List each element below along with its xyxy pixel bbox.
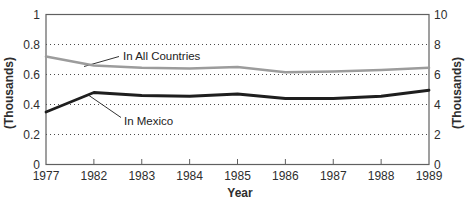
- x-axis-tick-label: 1985: [214, 169, 262, 183]
- left-axis-tick-label: 0.8: [0, 38, 40, 52]
- right-axis-tick-label: 10: [434, 8, 447, 22]
- series-label-mexico: In Mexico: [124, 114, 173, 128]
- x-axis-tick-label: 1986: [261, 169, 309, 183]
- right-axis-title: (Thousands): [450, 57, 464, 129]
- line-chart-figure: (Thousands) (Thousands) Year In All Coun…: [0, 0, 471, 208]
- x-axis-tick-label: 1983: [118, 169, 166, 183]
- x-axis-tick-label: 1988: [357, 169, 405, 183]
- left-axis-tick-label: 0.6: [0, 68, 40, 82]
- x-axis-tick-label: 1982: [70, 169, 118, 183]
- x-axis-title: Year: [214, 186, 266, 200]
- series-line-all-countries: [46, 57, 429, 73]
- right-axis-tick-label: 6: [434, 68, 441, 82]
- x-axis-tick-label: 1987: [309, 169, 357, 183]
- left-axis-tick-label: 0.2: [0, 128, 40, 142]
- series-label-all-countries: In All Countries: [123, 49, 200, 63]
- plot-border: [46, 15, 429, 165]
- x-axis-tick-label: 1984: [166, 169, 214, 183]
- right-axis-tick-label: 4: [434, 98, 441, 112]
- series-line-mexico: [46, 90, 429, 112]
- x-axis-tick-label: 1977: [22, 169, 70, 183]
- x-axis-tick-label: 1989: [405, 169, 453, 183]
- right-axis-tick-label: 2: [434, 128, 441, 142]
- left-axis-tick-label: 0.4: [0, 98, 40, 112]
- right-axis-tick-label: 8: [434, 38, 441, 52]
- annotation-leader-line-mexico: [89, 96, 121, 118]
- left-axis-tick-label: 1: [0, 8, 40, 22]
